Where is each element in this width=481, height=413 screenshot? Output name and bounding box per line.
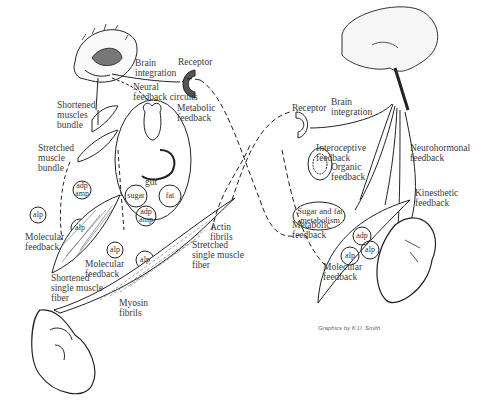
label-alp-2: alp <box>72 224 88 232</box>
label-molecular-feedback-left-1: Molecular feedback <box>25 232 64 252</box>
label-gut: gut <box>145 177 157 187</box>
label-fat: fat <box>160 192 180 200</box>
label-alp-right-2: alp <box>362 246 378 254</box>
label-alp-4: alp <box>137 256 153 264</box>
label-metabolic-feedback-right: Metabolic feedback <box>292 220 331 240</box>
label-alp-3: alp <box>107 246 123 254</box>
label-shortened-muscles-bundle: Shortened muscles bundle <box>57 100 96 130</box>
right-face-icon <box>377 218 436 303</box>
label-receptor-right: Receptor <box>292 103 326 113</box>
diagram-drawing <box>0 0 481 413</box>
left-brain-icon <box>74 24 137 110</box>
label-stretched-muscle-bundle: Stretched muscle bundle <box>38 143 74 173</box>
heart-icon <box>143 103 161 140</box>
label-sugar: sugar <box>125 192 147 200</box>
gut-icon <box>142 150 174 179</box>
left-face-icon <box>32 310 95 394</box>
label-shortened-single-fiber: Shortened single muscle fiber <box>51 273 103 303</box>
label-organic-feedback: Organic feedback <box>331 162 365 182</box>
label-alp-1: alp <box>30 211 46 219</box>
feedback-diagram: Brain integration Receptor Neural feedba… <box>0 0 481 413</box>
label-adp-amp-2: adp amp <box>136 208 156 224</box>
label-brain-integration-right: Brain integration <box>331 97 372 117</box>
right-receptor-icon <box>296 112 308 138</box>
label-stretched-single-fiber: Stretched single muscle fiber <box>192 240 244 270</box>
label-brain-integration-left: Brain integration <box>135 58 176 78</box>
label-adp-amp-1: adp amp <box>72 182 92 198</box>
label-adp-right: adp <box>354 232 370 240</box>
graphics-credit: Graphics by K.U. Smith <box>318 325 380 331</box>
label-neurohormonal-feedback: Neurohormonal feedback <box>410 143 470 163</box>
label-kinesthetic-feedback: Kinesthetic feedback <box>415 188 458 208</box>
label-alp-right-1: alp <box>342 252 358 260</box>
label-receptor-left: Receptor <box>178 57 212 67</box>
label-metabolic-feedback-left: Metabolic feedback <box>177 103 216 123</box>
label-neural-feedback: Neural feedback circuits <box>133 82 198 102</box>
label-molecular-feedback-right: Molecular feedback <box>323 262 362 282</box>
right-brain-icon <box>342 7 438 71</box>
label-myosin-fibrils: Myosin fibrils <box>119 298 148 318</box>
label-interoceptive-feedback: Interoceptive feedback <box>316 143 366 163</box>
label-actin-fibrils: Actin fibrils <box>210 222 233 242</box>
